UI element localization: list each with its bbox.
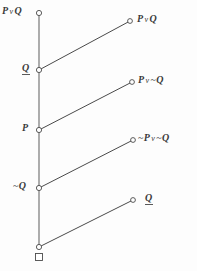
operand-p: P [2, 5, 9, 16]
node-branch-1[interactable] [128, 19, 133, 24]
operand-q: Q [149, 13, 157, 24]
branch-line-3 [39, 140, 133, 188]
branch-label-3: ~Pv~Q [138, 133, 170, 143]
node-spine-not-q[interactable] [36, 185, 41, 190]
operand-q: Q [156, 74, 164, 85]
spine-label-top: PvQ [2, 6, 22, 16]
operand-q: Q [19, 180, 27, 191]
branch-line-4 [39, 200, 133, 247]
operand-p: P [137, 13, 144, 24]
branch-line-2 [39, 82, 132, 130]
diagram-canvas: PvQ Q P ~Q PvQ Pv~Q ~Pv~Q Q [0, 0, 197, 271]
node-branch-4[interactable] [131, 198, 136, 203]
node-spine-q[interactable] [36, 67, 41, 72]
terminal-square-icon[interactable] [36, 254, 43, 261]
branch-line-1 [39, 21, 130, 70]
operand-q: Q [145, 192, 153, 203]
operand-q: Q [162, 132, 170, 143]
branch-label-1: PvQ [137, 14, 157, 24]
branch-label-2: Pv~Q [138, 75, 164, 85]
operand-q: Q [22, 62, 30, 73]
operand-q: Q [14, 5, 22, 16]
node-spine-bottom[interactable] [36, 244, 41, 249]
spine-label-q: Q [22, 63, 30, 75]
node-branch-3[interactable] [131, 138, 136, 143]
operand-p: P [22, 122, 29, 133]
node-spine-p[interactable] [36, 127, 41, 132]
node-branch-2[interactable] [130, 80, 135, 85]
operand-p: P [138, 74, 145, 85]
branch-label-4: Q [145, 193, 153, 205]
spine-label-p: P [22, 123, 29, 133]
node-spine-top[interactable] [36, 10, 41, 15]
spine-label-not-q: ~Q [13, 181, 26, 191]
